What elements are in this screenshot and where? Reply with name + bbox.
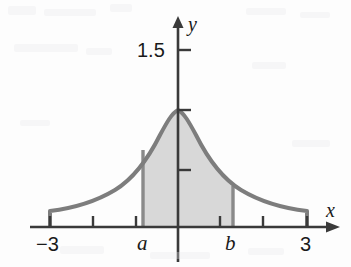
normal-curve-figure: 1.5 −3 3 a b x y xyxy=(0,0,351,267)
y-axis-arrowhead xyxy=(173,16,184,28)
x-tick-label-neg3: −3 xyxy=(36,234,59,254)
y-axis-label: y xyxy=(188,14,197,34)
plot-canvas xyxy=(0,0,351,267)
x-mark-label-a: a xyxy=(137,233,148,254)
x-tick-label-3: 3 xyxy=(300,234,311,254)
x-axis-arrowhead xyxy=(326,222,340,233)
y-tick-label-1p5: 1.5 xyxy=(137,40,165,60)
x-mark-label-b: b xyxy=(225,233,236,254)
x-axis-label: x xyxy=(326,200,335,220)
